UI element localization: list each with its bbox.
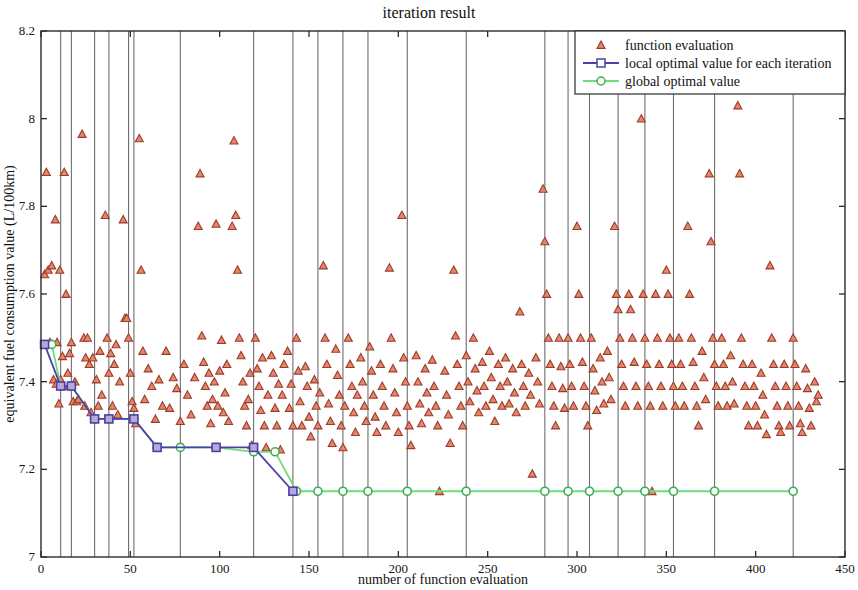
legend-label: local optimal value for each iteration [625,56,831,71]
series-marker [153,443,161,451]
legend-label: function evaluation [625,38,733,53]
series-marker [462,487,470,495]
series-marker [641,487,649,495]
series-marker [586,487,594,495]
x-tick-label: 150 [299,561,319,576]
series-marker [403,487,411,495]
y-tick-label: 7 [29,549,36,564]
series-marker [789,487,797,495]
chart-legend[interactable]: function evaluationlocal optimal value f… [575,31,845,94]
series-marker [212,443,220,451]
series-marker [105,415,113,423]
series-marker [564,487,572,495]
series-marker [289,487,297,495]
legend-square-icon [597,59,605,67]
y-tick-label: 8.2 [19,23,35,38]
x-tick-label: 300 [567,561,587,576]
series-marker [541,487,549,495]
series-marker [271,448,279,456]
series-marker [41,340,49,348]
series-marker [67,382,75,390]
series-marker [91,415,99,423]
series-marker [339,487,347,495]
x-tick-label: 100 [210,561,230,576]
x-tick-label: 0 [38,561,45,576]
y-tick-label: 7.4 [19,374,36,389]
series-marker [614,487,622,495]
legend-label: global optimal value [625,74,740,89]
chart-figure: 05010015020025030035040045077.27.47.67.8… [0,0,858,590]
series-marker [250,443,258,451]
x-tick-label: 400 [746,561,766,576]
y-tick-label: 7.6 [19,286,36,301]
series-marker [711,487,719,495]
y-tick-label: 7.8 [19,198,35,213]
legend-circle-icon [597,77,605,85]
x-tick-label: 450 [835,561,855,576]
y-tick-label: 7.2 [19,461,35,476]
x-tick-label: 50 [124,561,137,576]
x-axis-title: number of function evaluation [358,572,528,587]
y-axis-title: equivalent fuel consumption value (L/100… [2,165,18,423]
series-marker [669,487,677,495]
series-marker [130,415,138,423]
y-tick-label: 8 [29,111,36,126]
series-marker [364,487,372,495]
series-marker [57,382,65,390]
series-marker [314,487,322,495]
x-tick-label: 350 [657,561,677,576]
iteration-result-chart: 05010015020025030035040045077.27.47.67.8… [0,0,858,590]
page-title: iteration result [383,4,476,21]
